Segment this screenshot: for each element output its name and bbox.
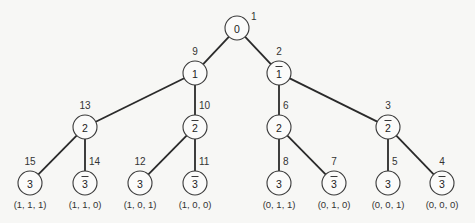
tree-edge [203, 37, 229, 64]
tree-edge [290, 78, 377, 121]
edges-layer [38, 37, 433, 175]
tree-edge [148, 136, 186, 175]
leaf-tuple-label: (1, 0, 1) [124, 199, 157, 210]
visit-order-number: 14 [89, 156, 101, 167]
node-label: 2 [192, 122, 198, 134]
node-label: 3 [82, 178, 88, 190]
leaf-tuple-label: (0, 0, 1) [372, 199, 405, 210]
tree-node: 12 [267, 46, 291, 85]
tree-edge [396, 136, 433, 175]
tree-edge [245, 37, 271, 64]
tree-node: 210 [183, 100, 211, 139]
node-label: 3 [385, 178, 391, 190]
visit-order-number: 5 [392, 156, 398, 167]
tree-diagram: 0119122132102623315(1, 1, 1)314(1, 1, 0)… [0, 0, 475, 223]
tree-node: 01 [225, 11, 257, 40]
visit-order-number: 1 [251, 11, 257, 22]
node-label: 2 [385, 122, 391, 134]
tree-node: 312(1, 0, 1) [124, 156, 157, 210]
tree-node: 213 [73, 100, 97, 139]
tree-edge [287, 136, 325, 175]
tree-node: 19 [183, 46, 207, 85]
tree-edge [38, 136, 76, 175]
node-label: 3 [137, 178, 143, 190]
tree-edge [96, 78, 184, 121]
node-label: 1 [276, 68, 282, 80]
leaf-tuple-label: (0, 0, 0) [426, 199, 459, 210]
visit-order-number: 13 [79, 100, 91, 111]
leaf-tuple-label: (0, 1, 1) [263, 199, 296, 210]
node-label: 3 [192, 178, 198, 190]
leaf-tuple-label: (0, 1, 0) [318, 199, 351, 210]
visit-order-number: 15 [24, 156, 36, 167]
visit-order-number: 12 [134, 156, 146, 167]
visit-order-number: 2 [276, 46, 282, 57]
node-label: 3 [331, 178, 337, 190]
visit-order-number: 4 [439, 156, 445, 167]
tree-svg: 0119122132102623315(1, 1, 1)314(1, 1, 0)… [0, 0, 475, 223]
tree-node: 37(0, 1, 0) [318, 156, 351, 210]
visit-order-number: 10 [199, 100, 211, 111]
visit-order-number: 3 [385, 100, 391, 111]
leaf-tuple-label: (1, 1, 0) [69, 199, 102, 210]
tree-node: 23 [376, 100, 400, 139]
leaf-tuple-label: (1, 1, 1) [14, 199, 47, 210]
tree-node: 34(0, 0, 0) [426, 156, 459, 210]
nodes-layer: 0119122132102623315(1, 1, 1)314(1, 1, 0)… [14, 11, 459, 210]
visit-order-number: 7 [331, 156, 337, 167]
node-label: 0 [234, 23, 240, 35]
node-label: 1 [192, 68, 198, 80]
visit-order-number: 9 [192, 46, 198, 57]
node-label: 2 [82, 122, 88, 134]
visit-order-number: 8 [283, 156, 289, 167]
visit-order-number: 11 [199, 156, 210, 167]
node-label: 2 [276, 122, 282, 134]
tree-node: 315(1, 1, 1) [14, 156, 47, 210]
node-label: 3 [27, 178, 33, 190]
visit-order-number: 6 [283, 100, 289, 111]
leaf-tuple-label: (1, 0, 0) [179, 199, 212, 210]
node-label: 3 [276, 178, 282, 190]
node-label: 3 [439, 178, 445, 190]
